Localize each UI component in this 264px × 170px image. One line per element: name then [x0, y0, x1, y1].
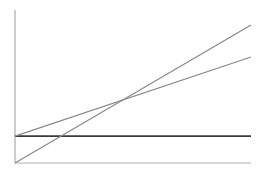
- shallow-rising-line: [15, 57, 251, 136]
- axes: [15, 10, 251, 163]
- line-chart: [0, 0, 264, 170]
- series-group: [15, 25, 251, 163]
- steep-rising-line: [15, 25, 251, 163]
